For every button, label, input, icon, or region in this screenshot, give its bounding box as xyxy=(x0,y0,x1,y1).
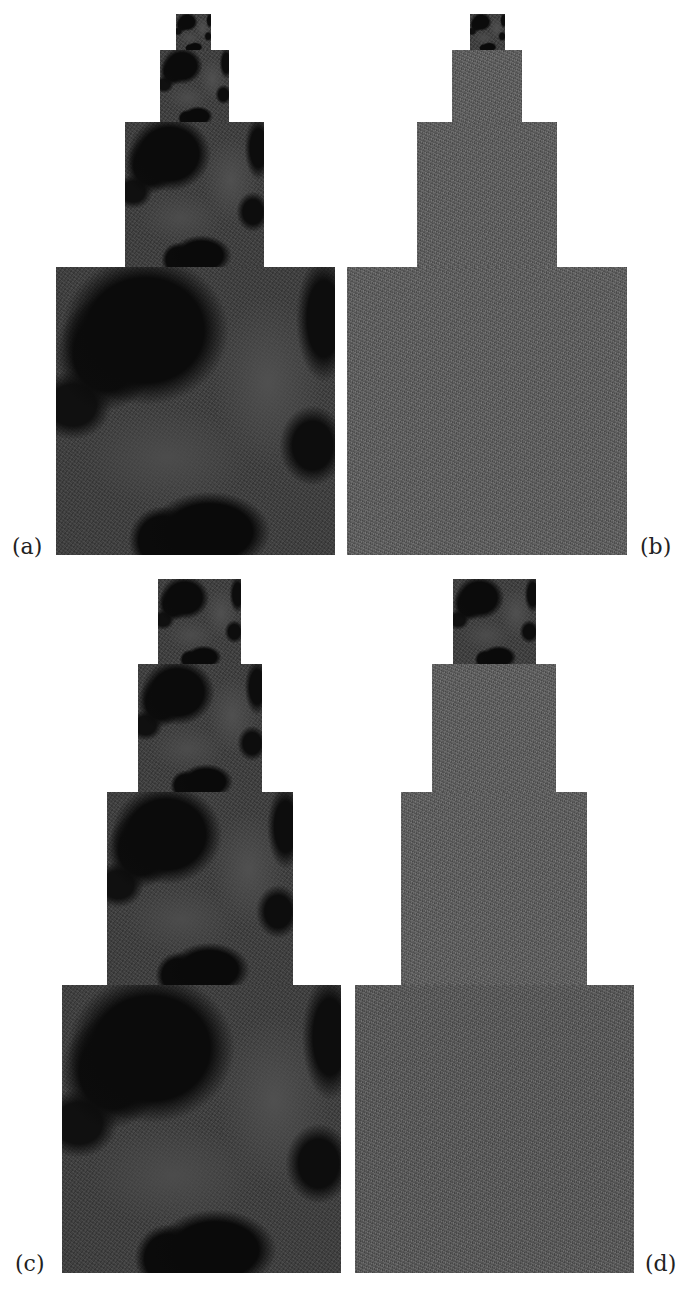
panel-label-d: (d) xyxy=(645,1253,676,1275)
pyramid-level-d-4-noise xyxy=(355,985,634,1273)
panel-d: (d) xyxy=(0,0,695,1302)
pyramid-level-d-2-noise xyxy=(432,664,556,792)
pyramid-level-d-1-image xyxy=(453,579,536,664)
pyramid-level-d-3-noise xyxy=(401,792,587,985)
pyramid-figure: (a)(b)(c)(d) xyxy=(0,0,695,1302)
